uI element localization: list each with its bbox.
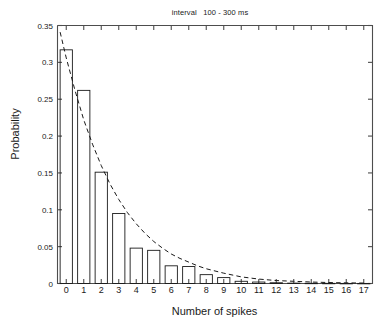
figure-container: interval 100 - 300 ms Probability Number… — [0, 0, 386, 330]
x-tick-label-17: 17 — [352, 285, 376, 295]
x-axis-tick-labels: 01234567891011121314151617 — [0, 0, 386, 330]
